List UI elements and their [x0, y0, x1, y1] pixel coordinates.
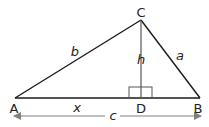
vertex-label-d: D — [136, 101, 146, 116]
side-label-h: h — [137, 52, 145, 67]
side-label-b: b — [71, 44, 79, 59]
vertex-label-c: C — [136, 5, 145, 20]
side-b — [15, 20, 141, 98]
side-a — [141, 20, 200, 98]
side-label-a: a — [176, 48, 184, 63]
triangle-diagram: C A D B b h a x c — [0, 0, 209, 127]
vertex-label-a: A — [10, 101, 19, 116]
vertex-label-b: B — [194, 101, 203, 116]
segment-label-x: x — [72, 100, 81, 115]
side-label-c: c — [109, 108, 116, 123]
